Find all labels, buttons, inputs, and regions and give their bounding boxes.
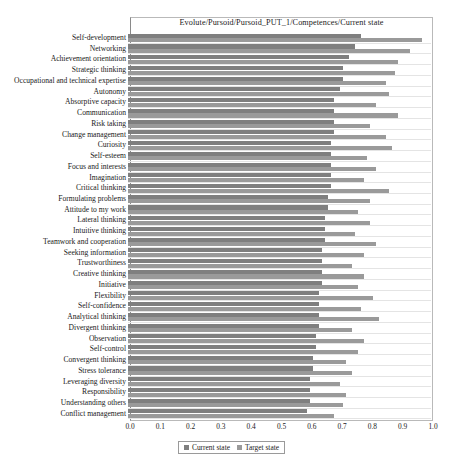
- bar-current-state: [128, 238, 325, 242]
- bar-target-state: [128, 49, 410, 53]
- bar-current-state: [128, 291, 319, 295]
- bar-target-state: [128, 199, 370, 203]
- category-label: Imagination: [0, 173, 128, 184]
- legend-label-target: Target state: [245, 443, 279, 452]
- row-bars: [128, 366, 431, 377]
- chart-row: Strategic thinking: [0, 65, 463, 76]
- bar-current-state: [128, 248, 322, 252]
- chart-row: Leveraging diversity: [0, 377, 463, 388]
- bar-current-state: [128, 281, 322, 285]
- row-bars: [128, 44, 431, 55]
- bar-current-state: [128, 195, 328, 199]
- chart-row: Curiosity: [0, 140, 463, 151]
- x-tick-label: 0.2: [186, 422, 195, 432]
- bar-target-state: [128, 350, 358, 354]
- category-label: Responsibility: [0, 387, 128, 398]
- category-label: Self-esteem: [0, 151, 128, 162]
- bar-current-state: [128, 120, 334, 124]
- bar-current-state: [128, 377, 310, 381]
- bar-current-state: [128, 388, 310, 392]
- bar-current-state: [128, 77, 343, 81]
- row-bars: [128, 183, 431, 194]
- bar-target-state: [128, 296, 373, 300]
- bar-target-state: [128, 156, 367, 160]
- bar-current-state: [128, 163, 331, 167]
- chart-row: Occupational and technical expertise: [0, 76, 463, 87]
- category-label: Seeking information: [0, 248, 128, 259]
- bar-target-state: [128, 135, 386, 139]
- chart-row: Analytical thinking: [0, 312, 463, 323]
- category-label: Curiosity: [0, 140, 128, 151]
- bar-current-state: [128, 44, 355, 48]
- category-label: Initiative: [0, 280, 128, 291]
- row-bars: [128, 301, 431, 312]
- row-bars: [128, 54, 431, 65]
- bar-current-state: [128, 356, 313, 360]
- row-bars: [128, 162, 431, 173]
- category-label: Conflict management: [0, 409, 128, 420]
- chart-row: Observation: [0, 334, 463, 345]
- row-bars: [128, 194, 431, 205]
- bar-target-state: [128, 178, 364, 182]
- row-bars: [128, 291, 431, 302]
- bar-target-state: [128, 92, 389, 96]
- bar-target-state: [128, 124, 370, 128]
- bar-target-state: [128, 339, 364, 343]
- chart-row: Teamwork and cooperation: [0, 237, 463, 248]
- category-label: Intuitive thinking: [0, 226, 128, 237]
- bar-target-state: [128, 307, 361, 311]
- chart-row: Lateral thinking: [0, 215, 463, 226]
- row-bars: [128, 151, 431, 162]
- bar-current-state: [128, 66, 343, 70]
- bar-current-state: [128, 399, 310, 403]
- row-bars: [128, 387, 431, 398]
- bar-current-state: [128, 324, 319, 328]
- bar-target-state: [128, 274, 364, 278]
- chart-row: Imagination: [0, 173, 463, 184]
- bar-current-state: [128, 366, 313, 370]
- chart-row: Self-control: [0, 344, 463, 355]
- competences-bar-chart: Evolute/Pursoid/Pursoid_PUT_1/Competence…: [0, 0, 463, 474]
- bar-target-state: [128, 253, 364, 257]
- bar-target-state: [128, 113, 398, 117]
- category-label: Leveraging diversity: [0, 377, 128, 388]
- chart-row: Achievement orientation: [0, 54, 463, 65]
- row-bars: [128, 409, 431, 420]
- category-label: Understanding others: [0, 398, 128, 409]
- chart-row: Responsibility: [0, 387, 463, 398]
- chart-row: Intuitive thinking: [0, 226, 463, 237]
- chart-row: Divergent thinking: [0, 323, 463, 334]
- category-label: Divergent thinking: [0, 323, 128, 334]
- row-bars: [128, 398, 431, 409]
- x-tick-label: 0.1: [156, 422, 165, 432]
- chart-row: Change management: [0, 130, 463, 141]
- category-label: Change management: [0, 130, 128, 141]
- chart-row: Self-confidence: [0, 301, 463, 312]
- bar-target-state: [128, 328, 352, 332]
- chart-row: Autonomy: [0, 87, 463, 98]
- chart-row: Communication: [0, 108, 463, 119]
- row-bars: [128, 226, 431, 237]
- bar-target-state: [128, 189, 389, 193]
- bar-current-state: [128, 98, 334, 102]
- chart-rows: Self-developmentNetworkingAchievement or…: [0, 33, 463, 420]
- category-label: Networking: [0, 44, 128, 55]
- row-bars: [128, 119, 431, 130]
- bar-target-state: [128, 71, 395, 75]
- bar-target-state: [128, 103, 376, 107]
- row-bars: [128, 108, 431, 119]
- row-bars: [128, 269, 431, 280]
- row-bars: [128, 312, 431, 323]
- legend-item-current-state[interactable]: Current state: [184, 443, 230, 452]
- category-label: Convergent thinking: [0, 355, 128, 366]
- bar-current-state: [128, 270, 322, 274]
- row-bars: [128, 334, 431, 345]
- chart-row: Flexibility: [0, 291, 463, 302]
- category-label: Occupational and technical expertise: [0, 76, 128, 87]
- bar-current-state: [128, 87, 340, 91]
- row-bars: [128, 65, 431, 76]
- chart-row: Understanding others: [0, 398, 463, 409]
- chart-row: Self-development: [0, 33, 463, 44]
- bar-target-state: [128, 371, 352, 375]
- legend-item-target-state[interactable]: Target state: [237, 443, 279, 452]
